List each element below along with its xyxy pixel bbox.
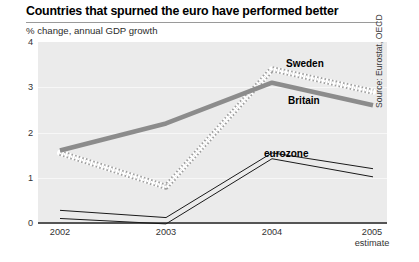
x-tick-2002-label: 2002 (50, 227, 70, 237)
x-tick-2003-label: 2003 (156, 227, 176, 237)
series-label-britain: Britain (288, 95, 320, 106)
chart-subtitle: % change, annual GDP growth (26, 25, 158, 36)
x-tick-2004: 2004 (262, 227, 282, 237)
x-tick-2004-label: 2004 (262, 227, 282, 237)
chart-figure: Countries that spurned the euro have per… (0, 0, 419, 262)
y-tick-0: 0 (18, 218, 33, 228)
series-label-sweden: Sweden (286, 58, 324, 69)
source-note: Source: Eurostat, OECD (374, 14, 384, 108)
x-tick-2005-label: 2005 (362, 227, 382, 237)
y-tick-1: 1 (18, 173, 33, 183)
x-axis-baseline (38, 222, 387, 224)
x-tick-2002: 2002 (50, 227, 70, 237)
y-tick-2: 2 (18, 128, 33, 138)
x-tick-2005: 2005 estimate (355, 227, 390, 248)
series-label-eurozone: eurozone (264, 148, 308, 159)
gridline-2 (38, 133, 387, 134)
title-divider (26, 22, 381, 23)
gridline-1 (38, 178, 387, 179)
chart-title: Countries that spurned the euro have per… (26, 4, 386, 18)
x-tick-2005-sublabel: estimate (355, 238, 390, 248)
y-tick-3: 3 (18, 82, 33, 92)
y-tick-4: 4 (18, 37, 33, 47)
x-tick-2003: 2003 (156, 227, 176, 237)
plot-area (38, 42, 387, 223)
gridline-3 (38, 87, 387, 88)
